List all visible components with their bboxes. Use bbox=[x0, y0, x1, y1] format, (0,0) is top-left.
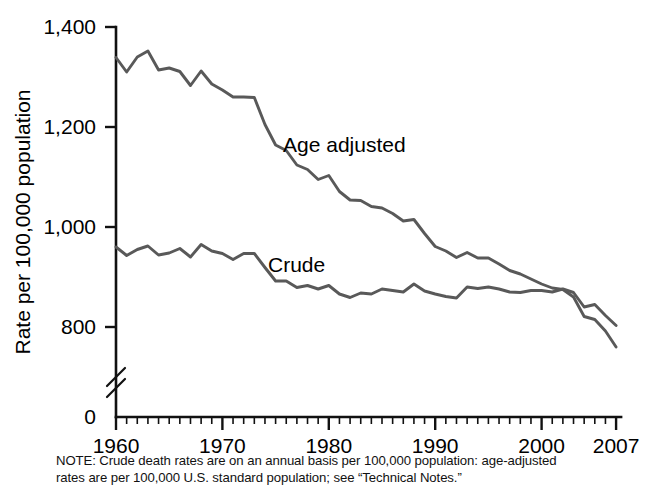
x-tick-label-1980: 1980 bbox=[305, 434, 352, 455]
note-line-1: NOTE: Crude death rates are on an annual… bbox=[56, 453, 631, 470]
y-axis-title: Rate per 100,000 population bbox=[11, 89, 34, 354]
y-tick-label-1000: 1,000 bbox=[43, 215, 96, 238]
axis-ticks bbox=[105, 27, 616, 430]
series-label-age-adjusted: Age adjusted bbox=[283, 133, 406, 156]
x-tick-label-1990: 1990 bbox=[412, 434, 459, 455]
x-tick-label-2007: 2007 bbox=[593, 434, 640, 455]
series-label-crude: Crude bbox=[268, 253, 325, 276]
y-tick-label-1200: 1,200 bbox=[43, 115, 96, 138]
x-axis-tick-labels: 196019701980199020002007 bbox=[93, 434, 640, 455]
x-tick-label-1960: 1960 bbox=[93, 434, 140, 455]
y-axis-tick-labels: 8001,0001,2001,4000 bbox=[43, 15, 96, 428]
line-chart-plot: 8001,0001,2001,4000 19601970198019902000… bbox=[0, 0, 646, 455]
chart-figure: 8001,0001,2001,4000 19601970198019902000… bbox=[0, 0, 646, 499]
x-tick-label-2000: 2000 bbox=[518, 434, 565, 455]
series-line-age-adjusted bbox=[116, 51, 616, 347]
y-tick-label-1400: 1,400 bbox=[43, 15, 96, 38]
chart-note: NOTE: Crude death rates are on an annual… bbox=[56, 453, 631, 486]
x-tick-label-1970: 1970 bbox=[199, 434, 246, 455]
data-series-lines bbox=[116, 51, 616, 347]
y-tick-label-zero: 0 bbox=[84, 405, 96, 428]
y-tick-label-800: 800 bbox=[61, 315, 96, 338]
note-line-2: rates are per 100,000 U.S. standard popu… bbox=[56, 470, 631, 487]
